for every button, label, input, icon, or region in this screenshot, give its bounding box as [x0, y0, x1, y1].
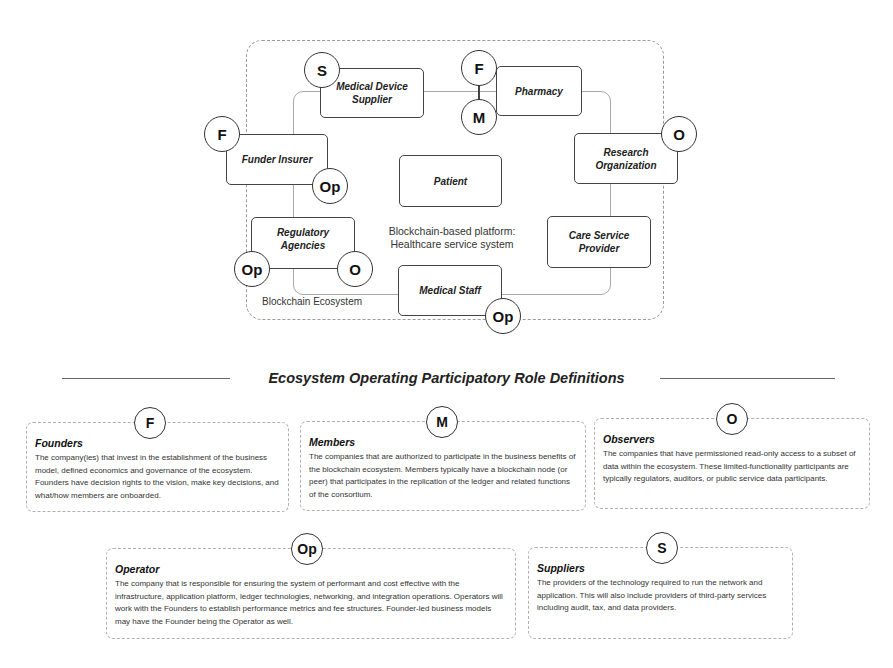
role-title: Members	[309, 436, 355, 448]
platform-label-line: Healthcare service system	[372, 238, 532, 251]
node-label: Supplier	[336, 93, 408, 106]
node-label: Organization	[595, 159, 656, 172]
role-title: Founders	[35, 437, 83, 449]
node-label: Care Service	[569, 229, 630, 242]
node-label: Medical Device	[336, 80, 408, 93]
badge-observer: O	[337, 251, 373, 287]
role-badge-operator: Op	[291, 533, 323, 565]
node-label: Agencies	[277, 239, 329, 252]
role-title: Suppliers	[537, 562, 585, 574]
ecosystem-label: Blockchain Ecosystem	[262, 296, 362, 307]
badge-operator: Op	[312, 168, 348, 204]
node-patient: Patient	[399, 155, 502, 207]
role-title: Observers	[603, 433, 655, 445]
badge-founder: F	[204, 116, 240, 152]
node-label: Pharmacy	[515, 85, 563, 98]
role-badge-observers: O	[716, 403, 748, 435]
badge-operator: Op	[485, 298, 521, 334]
badge-member: M	[461, 99, 497, 135]
node-label: Regulatory	[277, 226, 329, 239]
role-badge-suppliers: S	[646, 532, 678, 564]
role-description: The companies that have permissioned rea…	[603, 448, 861, 486]
platform-label-line: Blockchain-based platform:	[372, 225, 532, 238]
role-badge-members: M	[426, 406, 458, 438]
role-description: The companies that are authorized to par…	[309, 451, 577, 501]
node-label: Patient	[434, 175, 467, 188]
badge-founder: F	[461, 50, 497, 86]
node-label: Medical Staff	[419, 284, 481, 297]
node-funder-insurer: Funder Insurer	[226, 134, 328, 185]
node-label: Provider	[569, 242, 630, 255]
role-title: Operator	[115, 563, 159, 575]
badge-supplier: S	[304, 52, 340, 88]
platform-description: Blockchain-based platform: Healthcare se…	[372, 225, 532, 251]
node-label: Funder Insurer	[242, 153, 313, 166]
role-badge-founders: F	[134, 407, 166, 439]
role-description: The company that is responsible for ensu…	[115, 578, 507, 628]
node-label: Research	[595, 146, 656, 159]
role-description: The providers of the technology required…	[537, 577, 784, 615]
role-description: The company(ies) that invest in the esta…	[35, 452, 280, 502]
section-title: Ecosystem Operating Participatory Role D…	[0, 370, 893, 386]
node-pharmacy: Pharmacy	[496, 66, 582, 116]
node-care-service-provider: Care ServiceProvider	[547, 216, 651, 268]
badge-observer: O	[661, 116, 697, 152]
badge-operator: Op	[234, 251, 270, 287]
